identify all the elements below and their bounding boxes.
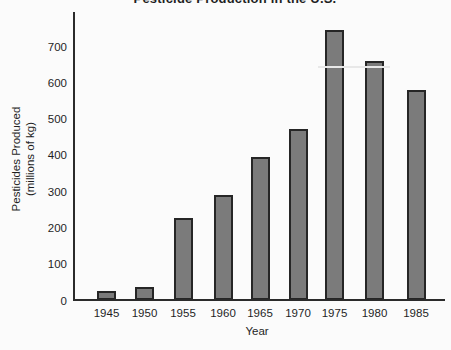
y-tick-label-200: 200 (35, 222, 67, 234)
y-axis-line (73, 12, 75, 301)
y-tick-label-600: 600 (35, 77, 67, 89)
y-tick-label-100: 100 (35, 258, 67, 270)
x-tick-label-1980: 1980 (355, 307, 395, 319)
pesticide-production-bar-chart: Pesticide Production in the U.S. Pestici… (0, 0, 451, 350)
x-tick-label-1955: 1955 (163, 307, 203, 319)
x-tick-label-1970: 1970 (278, 307, 318, 319)
x-tick-label-1945: 1945 (87, 307, 127, 319)
bar-1975 (325, 30, 344, 300)
scan-artifact-line (318, 66, 390, 68)
x-tick-label-1950: 1950 (125, 307, 165, 319)
bar-1980 (365, 61, 384, 300)
x-tick-label-1975: 1975 (315, 307, 355, 319)
bar-1960 (214, 195, 233, 300)
y-tick-label-500: 500 (35, 113, 67, 125)
x-tick-label-1985: 1985 (396, 307, 436, 319)
bar-1970 (289, 129, 308, 300)
bar-1955 (174, 218, 193, 300)
y-tick-label-400: 400 (35, 149, 67, 161)
bar-1965 (251, 157, 270, 300)
x-axis-line (73, 299, 445, 301)
y-axis-label-line1: Pesticides Produced (9, 85, 23, 233)
y-tick-label-0: 0 (35, 295, 67, 307)
bar-1985 (407, 90, 426, 300)
chart-title: Pesticide Production in the U.S. (110, 0, 360, 6)
y-tick-label-700: 700 (35, 41, 67, 53)
x-axis-title: Year (227, 325, 287, 337)
x-tick-label-1965: 1965 (240, 307, 280, 319)
y-tick-label-300: 300 (35, 186, 67, 198)
x-tick-label-1960: 1960 (203, 307, 243, 319)
